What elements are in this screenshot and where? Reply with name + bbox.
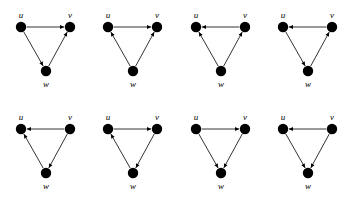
graph-2-canvas: uvw <box>87 0 174 102</box>
node-label-u: u <box>106 10 111 20</box>
node-w <box>303 66 313 76</box>
node-u <box>278 123 288 133</box>
node-label-u: u <box>106 111 111 121</box>
node-label-w: w <box>305 79 311 89</box>
node-v <box>239 22 249 32</box>
node-label-v: v <box>243 10 247 20</box>
edge-w-to-v <box>223 32 242 66</box>
node-v <box>327 22 337 32</box>
arrowhead-v-to-u-icon <box>289 127 293 131</box>
graph-7: uvw <box>175 102 262 204</box>
edge-u-to-w <box>24 32 43 66</box>
node-label-w: w <box>130 181 136 191</box>
edge-w-to-u <box>198 32 217 66</box>
node-label-v: v <box>155 111 159 121</box>
node-label-v: v <box>330 111 334 121</box>
node-label-u: u <box>193 111 198 121</box>
graph-4-canvas: uvw <box>262 0 349 102</box>
node-w <box>215 167 225 177</box>
directed-graph-figure: uvwuvwuvwuvwuvwuvwuvwuvw <box>0 0 349 203</box>
edge-v-to-w <box>311 133 330 167</box>
graph-1: uvw <box>0 0 87 102</box>
node-w <box>41 66 51 76</box>
node-u <box>190 22 200 32</box>
node-label-v: v <box>155 10 159 20</box>
node-label-u: u <box>281 10 286 20</box>
arrowhead-u-to-v-icon <box>235 127 239 131</box>
node-w <box>215 66 225 76</box>
edge-u-to-w <box>286 133 305 167</box>
node-u <box>103 123 113 133</box>
node-label-u: u <box>19 10 24 20</box>
node-label-w: w <box>217 181 223 191</box>
node-label-w: w <box>43 79 49 89</box>
node-u <box>16 22 26 32</box>
node-v <box>239 123 249 133</box>
node-label-v: v <box>243 111 247 121</box>
arrowhead-u-to-v-icon <box>60 25 64 29</box>
node-label-v: v <box>330 10 334 20</box>
node-u <box>103 22 113 32</box>
edge-w-to-u <box>111 32 130 66</box>
node-w <box>128 167 138 177</box>
edge-w-to-v <box>136 32 155 66</box>
graph-5-canvas: uvw <box>0 102 87 204</box>
arrowhead-v-to-u-icon <box>27 127 31 131</box>
edge-u-to-w <box>286 32 305 66</box>
node-label-v: v <box>68 10 72 20</box>
node-v <box>152 22 162 32</box>
node-v <box>65 22 75 32</box>
graph-grid: uvwuvwuvwuvwuvwuvwuvwuvw <box>0 0 349 203</box>
graph-5: uvw <box>0 102 87 204</box>
node-v <box>65 123 75 133</box>
edge-w-to-u <box>111 134 130 168</box>
node-label-w: w <box>305 181 311 191</box>
node-label-u: u <box>193 10 198 20</box>
node-label-u: u <box>281 111 286 121</box>
graph-4: uvw <box>262 0 349 102</box>
arrowhead-v-to-u-icon <box>201 25 205 29</box>
node-u <box>278 22 288 32</box>
edge-v-to-w <box>49 133 68 167</box>
node-u <box>190 123 200 133</box>
node-label-w: w <box>43 181 49 191</box>
node-v <box>152 123 162 133</box>
graph-8: uvw <box>262 102 349 204</box>
arrowhead-u-to-v-icon <box>147 25 151 29</box>
edge-v-to-w <box>136 133 155 167</box>
graph-6: uvw <box>87 102 174 204</box>
node-label-w: w <box>217 79 223 89</box>
edge-u-to-w <box>198 133 217 167</box>
node-w <box>128 66 138 76</box>
graph-3: uvw <box>175 0 262 102</box>
graph-1-canvas: uvw <box>0 0 87 102</box>
graph-2: uvw <box>87 0 174 102</box>
node-label-u: u <box>19 111 24 121</box>
node-label-w: w <box>130 79 136 89</box>
node-u <box>16 123 26 133</box>
graph-8-canvas: uvw <box>262 102 349 204</box>
edge-v-to-w <box>223 133 242 167</box>
graph-6-canvas: uvw <box>87 102 174 204</box>
node-w <box>303 167 313 177</box>
node-v <box>327 123 337 133</box>
arrowhead-u-to-v-icon <box>147 127 151 131</box>
graph-7-canvas: uvw <box>175 102 262 204</box>
node-label-v: v <box>68 111 72 121</box>
edge-w-to-v <box>49 32 68 66</box>
graph-3-canvas: uvw <box>175 0 262 102</box>
edge-w-to-u <box>24 134 43 168</box>
node-w <box>41 167 51 177</box>
edge-w-to-v <box>310 32 329 66</box>
arrowhead-v-to-u-icon <box>289 25 293 29</box>
